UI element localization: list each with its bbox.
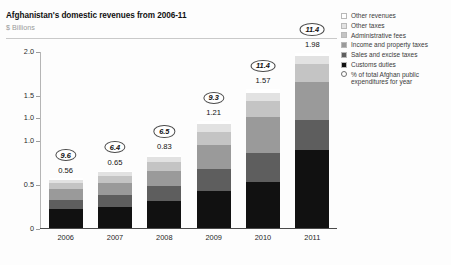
- x-axis-label: 2008: [140, 234, 189, 241]
- x-axis-labels: 200620072008200920102011: [41, 234, 337, 241]
- bar-value-label: 1.57: [256, 77, 271, 85]
- y-axis-tick-label: 0: [30, 225, 34, 232]
- bar-segment[interactable]: [98, 207, 132, 228]
- bar-segment[interactable]: [197, 169, 231, 191]
- stacked-bar[interactable]: [147, 155, 181, 228]
- y-axis-tick: [36, 118, 40, 119]
- bar-segment[interactable]: [295, 150, 329, 228]
- legend-swatch-icon: [341, 23, 347, 29]
- chart-header: Afghanistan's domestic revenues from 200…: [6, 11, 337, 34]
- legend-item-label: % of total Afghan public expenditures fo…: [351, 71, 449, 86]
- legend-item[interactable]: % of total Afghan public expenditures fo…: [341, 71, 449, 86]
- bar-segment[interactable]: [98, 176, 132, 183]
- y-axis-tick: [36, 229, 40, 230]
- chart-page: Afghanistan's domestic revenues from 200…: [0, 0, 451, 265]
- legend-item[interactable]: Administrative fees: [341, 32, 449, 40]
- bar-segment[interactable]: [246, 117, 280, 153]
- y-axis-tick-label: 1.0: [24, 115, 34, 122]
- bar-segment[interactable]: [49, 209, 83, 228]
- bar-value-label: 0.56: [58, 167, 73, 175]
- stacked-bar[interactable]: [197, 121, 231, 228]
- legend-swatch-icon: [341, 52, 347, 58]
- x-axis-label: 2007: [90, 234, 139, 241]
- bar-segment[interactable]: [98, 183, 132, 195]
- bar-group: 0.569.60.656.40.836.51.219.31.5711.41.98…: [41, 52, 337, 228]
- bar-value-label: 0.83: [157, 143, 172, 151]
- chart-subtitle: $ Billions: [6, 23, 337, 34]
- bar-segment[interactable]: [197, 191, 231, 228]
- bar-segment[interactable]: [147, 162, 181, 171]
- bar-value-label: 1.21: [206, 109, 221, 117]
- y-axis-tick: [36, 141, 40, 142]
- bar-segment[interactable]: [246, 101, 280, 117]
- bar-segment[interactable]: [295, 120, 329, 150]
- bar-slot[interactable]: 1.219.3: [189, 52, 238, 228]
- plot-area: 00.51.01.01.52.0 0.569.60.656.40.836.51.…: [40, 52, 337, 229]
- bar-segment[interactable]: [49, 200, 83, 210]
- legend-swatch-icon: [341, 13, 347, 19]
- legend-swatch-icon: [341, 62, 347, 68]
- y-axis-tick-label: 0.5: [24, 181, 34, 188]
- stacked-bar[interactable]: [98, 171, 132, 228]
- legend-item[interactable]: Other taxes: [341, 22, 449, 30]
- header-divider: [6, 38, 337, 39]
- legend-circle-icon: [341, 71, 347, 77]
- stacked-bar[interactable]: [246, 89, 280, 228]
- legend-swatch-icon: [341, 32, 347, 38]
- bar-slot[interactable]: 0.836.5: [140, 52, 189, 228]
- legend-swatch-icon: [341, 42, 347, 48]
- bar-segment[interactable]: [197, 132, 231, 145]
- bar-segment[interactable]: [49, 189, 83, 200]
- y-axis-tick-label: 2.0: [24, 48, 34, 55]
- percent-annotation: 6.4: [104, 141, 125, 153]
- x-axis-line: [40, 228, 337, 229]
- bar-slot[interactable]: 0.656.4: [90, 52, 139, 228]
- legend-item-label: Administrative fees: [351, 32, 406, 40]
- stacked-bar[interactable]: [295, 53, 329, 228]
- y-axis-tick-label: 1.5: [24, 93, 34, 100]
- bar-segment[interactable]: [246, 93, 280, 101]
- bar-segment[interactable]: [246, 153, 280, 182]
- bar-segment[interactable]: [295, 82, 329, 120]
- page-title: Afghanistan's domestic revenues from 200…: [6, 11, 337, 21]
- legend-item-label: Other taxes: [351, 22, 385, 30]
- y-axis-tick: [36, 96, 40, 97]
- legend-item[interactable]: Income and property taxes: [341, 41, 449, 49]
- y-axis-tick: [36, 185, 40, 186]
- legend-item-label: Customs duties: [351, 61, 396, 69]
- percent-annotation: 9.6: [55, 149, 76, 161]
- bar-segment[interactable]: [147, 201, 181, 228]
- bar-segment[interactable]: [98, 195, 132, 207]
- bar-value-label: 0.65: [108, 159, 123, 167]
- x-axis-label: 2006: [41, 234, 90, 241]
- bar-segment[interactable]: [147, 186, 181, 201]
- legend-item-label: Other revenues: [351, 12, 396, 20]
- percent-annotation: 6.5: [154, 125, 175, 137]
- legend-item[interactable]: Customs duties: [341, 61, 449, 69]
- percent-annotation: 11.4: [251, 60, 276, 72]
- bar-segment[interactable]: [295, 64, 329, 82]
- bar-segment[interactable]: [147, 171, 181, 187]
- x-axis-label: 2010: [238, 234, 287, 241]
- chart-legend: Other revenuesOther taxesAdministrative …: [341, 12, 449, 88]
- y-axis-tick: [36, 52, 40, 53]
- bar-slot[interactable]: 1.5711.4: [238, 52, 287, 228]
- bar-slot[interactable]: 0.569.6: [41, 52, 90, 228]
- legend-item-label: Income and property taxes: [351, 41, 428, 49]
- bar-slot[interactable]: 1.9811.4: [288, 52, 337, 228]
- legend-item[interactable]: Sales and excise taxes: [341, 51, 449, 59]
- legend-item[interactable]: Other revenues: [341, 12, 449, 20]
- bar-segment[interactable]: [197, 145, 231, 169]
- y-axis-tick-label: 1.0: [24, 137, 34, 144]
- bar-segment[interactable]: [295, 56, 329, 64]
- stacked-bar[interactable]: [49, 178, 83, 228]
- bar-segment[interactable]: [197, 124, 231, 131]
- x-axis-label: 2011: [288, 234, 337, 241]
- percent-annotation: 9.3: [203, 92, 224, 104]
- bar-value-label: 1.98: [305, 41, 320, 49]
- bar-segment[interactable]: [246, 182, 280, 228]
- x-axis-label: 2009: [189, 234, 238, 241]
- legend-item-label: Sales and excise taxes: [351, 51, 417, 59]
